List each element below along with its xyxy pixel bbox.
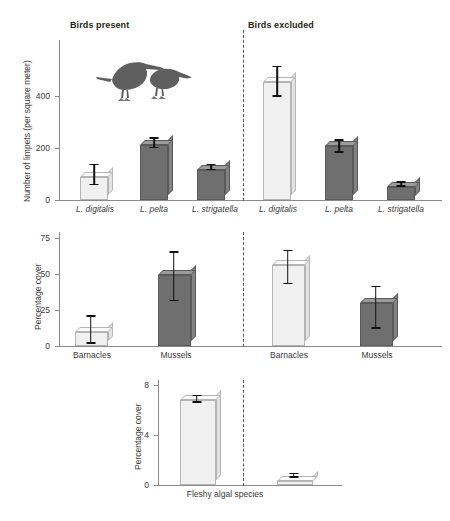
errorbar-excluded-fleshy-algae <box>289 473 298 479</box>
y-tick-bot-0 <box>154 485 158 486</box>
y-tick-bot-4 <box>154 435 158 436</box>
bar-present-fleshy-algae <box>180 400 216 485</box>
y-tick-label-bot-0: 0 <box>133 480 149 490</box>
figure-root: Birds present Birds excluded Number of l… <box>0 0 450 521</box>
y-tick-bot-8 <box>154 385 158 386</box>
y-tick-label-bot-8: 8 <box>133 380 149 390</box>
x-axis-line-bottom <box>158 485 342 486</box>
panel-divider-bottom <box>243 380 244 486</box>
x-label-fleshy-algal-species: Fleshy algal species <box>155 489 295 499</box>
y-tick-label-bot-4: 4 <box>133 430 149 440</box>
bar-excluded-fleshy-algae <box>277 481 313 485</box>
panel-percentage-cover-algae: Percentage cover 0 4 8 Fleshy algal spec <box>0 0 450 521</box>
errorbar-present-fleshy-algae <box>192 395 201 403</box>
y-axis-line-bottom <box>158 380 159 486</box>
